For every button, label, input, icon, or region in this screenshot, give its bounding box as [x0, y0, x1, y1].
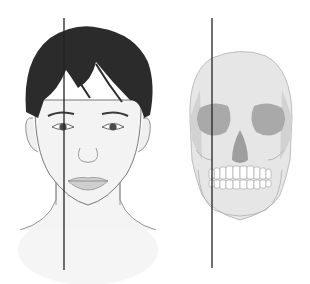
- face-figure: [18, 26, 158, 284]
- skull-figure: [190, 51, 292, 220]
- illustration: Human face (front view) Human skull (fro…: [0, 0, 310, 284]
